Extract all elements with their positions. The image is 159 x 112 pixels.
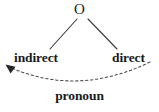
node-label-indirect: indirect [14, 51, 58, 65]
diagram-canvas: O indirect direct pronoun [0, 0, 159, 112]
node-label-o: O [0, 2, 159, 17]
edge-right-branch [88, 19, 117, 49]
edge-label-pronoun: pronoun [0, 89, 159, 103]
edge-left-branch [50, 19, 77, 49]
node-label-direct: direct [112, 51, 145, 65]
